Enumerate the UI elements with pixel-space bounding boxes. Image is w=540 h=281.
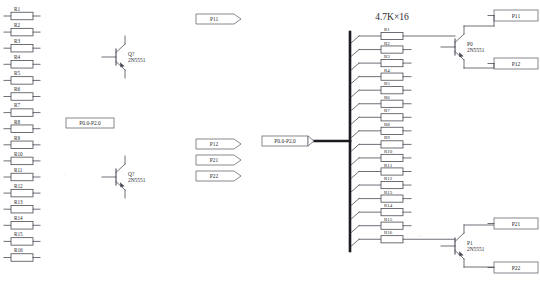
resistor-body [11, 141, 33, 149]
bus-net-label[interactable]: P0.0-P2.0 [262, 136, 308, 146]
resistor-body [381, 114, 403, 121]
bus-branch-diagonal [351, 131, 359, 138]
resistor-body [11, 222, 33, 230]
net-flag-outline [196, 171, 241, 181]
net-flag-outline [196, 14, 241, 24]
net-flag-label: P12 [210, 141, 219, 147]
transistor-ref-label: Q? [128, 171, 135, 177]
port-box-p22[interactable]: P22 [494, 262, 538, 273]
net-label-text: P0.0-P2.0 [274, 138, 296, 144]
port-box-p11[interactable]: P11 [494, 10, 538, 21]
resistor-symbol: R8 [4, 119, 40, 133]
resistor-ref-label: R6 [14, 86, 20, 92]
resistor-ref-label: R15 [14, 231, 23, 237]
resistor-ref-label: R6 [384, 95, 390, 100]
resistor-body [11, 254, 33, 262]
array-resistor-branch: R10 [351, 149, 411, 165]
bus-branch-diagonal [351, 212, 359, 219]
resistor-body [11, 205, 33, 213]
net-label-p00-p20[interactable]: P0.0-P2.0 [66, 118, 114, 128]
bus-branch-diagonal [351, 104, 359, 111]
array-resistor-branch: R11 [351, 163, 411, 179]
resistor-body [381, 32, 403, 39]
net-flag-outline [196, 155, 241, 165]
array-resistor-branch: R8 [351, 122, 411, 138]
transistor-right-top: P02N5551 [441, 26, 485, 68]
transistor-ref-label: Q? [128, 51, 135, 57]
resistor-ref-label: R4 [384, 68, 390, 73]
resistor-symbol: R2 [4, 22, 40, 36]
resistor-ref-label: R10 [14, 151, 23, 157]
resistor-ref-label: R16 [384, 230, 393, 235]
resistor-body [381, 209, 403, 216]
bus-branch-diagonal [351, 172, 359, 179]
array-resistor-branch: R2 [351, 41, 411, 57]
resistor-ref-label: R1 [384, 27, 390, 32]
resistor-body [11, 125, 33, 133]
transistor-collector-lead [116, 164, 125, 173]
resistor-ref-label: R14 [384, 203, 393, 208]
transistor-ref-label: P1 [467, 240, 473, 246]
resistor-ref-label: R3 [384, 54, 390, 59]
port-box-p21[interactable]: P21 [494, 218, 538, 229]
resistor-symbol: R10 [4, 151, 40, 165]
bus-branch-diagonal [351, 36, 359, 43]
transistor-part-label: 2N5551 [467, 246, 485, 252]
resistor-symbol: R3 [4, 38, 40, 52]
resistor-body [11, 44, 33, 52]
resistor-symbol: R16 [4, 247, 40, 261]
transistor-ref-label: P0 [467, 41, 473, 47]
bus-branch-diagonal [351, 239, 359, 246]
net-flag-p22[interactable]: P22 [196, 171, 241, 181]
transistor-collector-lead [455, 233, 464, 242]
bus-branch-diagonal [351, 63, 359, 70]
array-resistor-branch: R14 [351, 203, 411, 219]
resistor-symbol: R5 [4, 70, 40, 84]
resistor-symbol: R13 [4, 199, 40, 213]
array-resistor-branch: R1 [351, 27, 455, 43]
array-resistor-branch: R13 [351, 190, 411, 206]
net-label-text: P0.0-P2.0 [79, 120, 101, 126]
resistor-symbol: R6 [4, 86, 40, 100]
net-flag-p12[interactable]: P12 [196, 139, 241, 149]
resistor-body [381, 154, 403, 161]
resistor-ref-label: R8 [14, 119, 20, 125]
resistor-body [381, 222, 403, 229]
left-resistor-column: R1R2R3R4R5R6R7R8R9R10R11R12R13R14R15R16 [4, 6, 40, 261]
bus-branch-diagonal [351, 185, 359, 192]
resistor-body [381, 195, 403, 202]
net-flag-p21[interactable]: P21 [196, 155, 241, 165]
resistor-body [11, 77, 33, 85]
transistor-emitter-arrow [459, 52, 464, 57]
resistor-body [381, 60, 403, 67]
resistor-body [381, 100, 403, 107]
resistor-body [11, 109, 33, 117]
array-resistor-branch: R5 [351, 81, 411, 97]
array-resistor-branch: R12 [351, 176, 411, 192]
resistor-symbol: R9 [4, 135, 40, 149]
resistor-ref-label: R4 [14, 54, 20, 60]
bus-branch-diagonal [351, 50, 359, 57]
resistor-ref-label: R9 [14, 135, 20, 141]
port-box-label: P12 [512, 61, 521, 67]
transistor-right-bottom: P12N5551 [441, 225, 485, 267]
resistor-ref-label: R15 [384, 217, 393, 222]
resistor-ref-label: R2 [384, 41, 390, 46]
transistor-part-label: 2N5551 [467, 47, 485, 53]
port-box-p12[interactable]: P12 [494, 58, 538, 69]
resistor-symbol: R1 [4, 6, 40, 20]
transistor-part-label: 2N5551 [128, 177, 146, 183]
resistor-ref-label: R13 [14, 199, 23, 205]
net-flag-p11[interactable]: P11 [196, 14, 241, 24]
resistor-ref-label: R12 [14, 183, 23, 189]
transistor-left-bottom: Q?2N5551 [102, 156, 146, 198]
resistor-array-title: 4.7K×16 [375, 12, 409, 22]
array-resistor-branch: R6 [351, 95, 411, 111]
resistor-ref-label: R2 [14, 22, 20, 28]
resistor-body [11, 12, 33, 20]
resistor-body [11, 189, 33, 197]
resistor-symbol: R14 [4, 215, 40, 229]
resistor-body [11, 157, 33, 165]
transistor-emitter-arrow [120, 62, 125, 67]
bus-branch-diagonal [351, 144, 359, 151]
